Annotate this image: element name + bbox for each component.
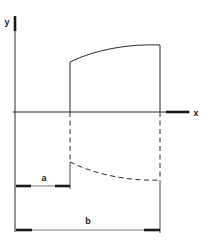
- axes-group: [13, 16, 190, 232]
- dimension-a-label: a: [41, 173, 47, 183]
- lower-profile-curve: [70, 162, 160, 180]
- dimension-b-label: b: [85, 216, 91, 226]
- lower-profile-group: [70, 112, 160, 180]
- upper-profile-group: [70, 45, 160, 112]
- upper-profile-curve: [70, 45, 160, 62]
- y-axis-label: y: [4, 17, 9, 27]
- diagram-canvas: y x a b: [0, 0, 205, 246]
- x-axis-label: x: [193, 108, 198, 118]
- diagram-figure: y x a b: [0, 0, 205, 246]
